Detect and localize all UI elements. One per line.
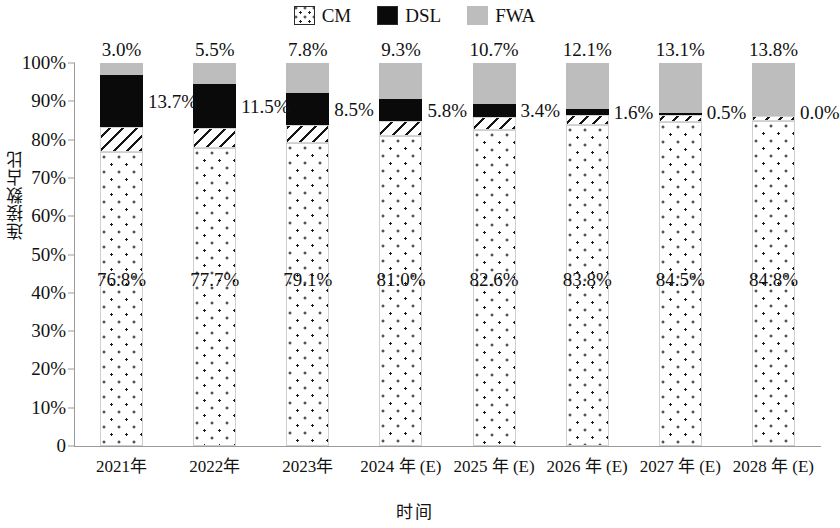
segment-dsl [286,93,329,126]
segment-other [752,116,795,121]
segment-dsl [473,104,516,117]
segment-other [193,128,236,148]
segment-other [566,115,609,125]
y-axis-title: 连接数占比 [2,150,28,240]
bar-7[interactable] [659,63,702,446]
x-tick-label: 2022年 [189,452,240,477]
x-tick-label: 2028 年 (E) [733,452,814,477]
y-tick-label: 100% [22,52,75,74]
x-tick-label: 2024 年 (E) [360,452,441,477]
value-label-fwa: 13.1% [656,40,705,59]
y-tick-mark [68,216,75,217]
value-label-fwa: 12.1% [563,40,612,59]
x-tick-label: 2021年 [96,452,147,477]
segment-fwa [752,63,795,116]
segment-dsl [659,113,702,115]
segment-cm [193,148,236,446]
value-label-cm: 84.5% [656,270,705,289]
segment-dsl [566,109,609,115]
value-label-fwa: 10.7% [470,40,519,59]
bar-1[interactable] [100,63,143,446]
y-tick-mark [68,331,75,332]
x-tick-label: 2023年 [282,452,333,477]
segment-dsl [193,84,236,128]
value-label-fwa: 7.8% [288,40,328,59]
bar-6[interactable] [566,63,609,446]
value-label-dsl: 13.7% [148,91,197,110]
plot-area: 010%20%30%40%50%60%70%80%90%100% 3.0%13.… [75,63,820,446]
bar-8[interactable] [752,63,795,446]
segment-dsl [379,99,422,121]
value-label-cm: 81.0% [376,270,425,289]
value-label-dsl: 0.5% [707,102,747,121]
segment-dsl [100,75,143,127]
segment-other [100,127,143,152]
x-tick-label: 2026 年 (E) [547,452,628,477]
x-tick-label: 2025 年 (E) [453,452,534,477]
value-label-fwa: 5.5% [195,40,235,59]
value-label-fwa: 13.8% [749,40,798,59]
segment-cm [379,136,422,446]
y-tick-mark [68,407,75,408]
bar-5[interactable] [473,63,516,446]
segment-fwa [566,63,609,109]
value-label-fwa: 9.3% [381,40,421,59]
y-tick-mark [68,177,75,178]
y-tick-mark [68,254,75,255]
y-tick-mark [68,139,75,140]
value-label-dsl: 3.4% [521,101,561,120]
segment-fwa [286,63,329,93]
segment-cm [100,152,143,446]
value-label-cm: 82.6% [470,270,519,289]
value-label-cm: 83.8% [563,270,612,289]
value-label-dsl: 0.0% [800,103,840,122]
value-label-dsl: 11.5% [241,97,289,116]
segment-fwa [473,63,516,104]
segment-other [379,121,422,136]
value-label-cm: 76.8% [97,270,146,289]
segment-fwa [100,63,143,74]
segment-fwa [659,63,702,113]
bar-2[interactable] [193,63,236,446]
x-tick-label: 2027 年 (E) [640,452,721,477]
y-tick-mark [68,101,75,102]
x-axis-line [74,446,821,447]
value-label-cm: 84.8% [749,270,798,289]
y-tick-mark [68,63,75,64]
value-label-cm: 77.7% [190,270,239,289]
y-tick-mark [68,446,75,447]
segment-cm [286,143,329,446]
segment-fwa [193,63,236,84]
value-label-cm: 79.1% [283,270,332,289]
value-label-dsl: 8.5% [334,100,374,119]
bar-3[interactable] [286,63,329,446]
y-tick-mark [68,292,75,293]
y-tick-mark [68,369,75,370]
segment-other [659,115,702,122]
value-label-fwa: 3.0% [102,40,142,59]
segment-fwa [379,63,422,99]
x-axis-title: 时间 [0,498,829,523]
value-label-dsl: 5.8% [427,100,467,119]
bar-4[interactable] [379,63,422,446]
value-label-dsl: 1.6% [614,103,654,122]
segment-other [473,117,516,130]
segment-other [286,125,329,143]
